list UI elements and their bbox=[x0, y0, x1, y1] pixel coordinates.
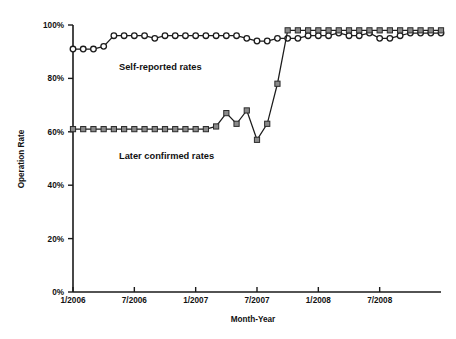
data-point-marker bbox=[111, 127, 116, 132]
data-point-marker bbox=[265, 121, 270, 126]
data-point-marker bbox=[234, 33, 240, 39]
data-point-marker bbox=[254, 38, 260, 44]
data-point-marker bbox=[81, 127, 86, 132]
data-point-marker bbox=[377, 28, 382, 33]
data-point-marker bbox=[387, 28, 392, 33]
x-tick-label: 7/2007 bbox=[244, 296, 269, 305]
data-point-marker bbox=[70, 127, 75, 132]
data-point-marker bbox=[142, 33, 148, 39]
data-point-marker bbox=[275, 36, 281, 42]
data-point-marker bbox=[193, 127, 198, 132]
data-point-marker bbox=[203, 33, 209, 39]
y-tick-label: 100% bbox=[43, 21, 65, 30]
data-point-marker bbox=[214, 124, 219, 129]
data-point-marker bbox=[121, 33, 127, 39]
data-point-marker bbox=[173, 127, 178, 132]
y-tick-label: 40% bbox=[48, 181, 65, 190]
data-point-marker bbox=[356, 33, 362, 39]
y-tick-label: 20% bbox=[48, 235, 65, 244]
data-point-marker bbox=[132, 33, 138, 39]
operation-rate-chart: 0%20%40%60%80%100% Operation Rate 1/2006… bbox=[0, 0, 456, 339]
data-point-marker bbox=[183, 33, 189, 39]
data-point-marker bbox=[193, 33, 199, 39]
data-point-marker bbox=[122, 127, 127, 132]
data-point-marker bbox=[264, 38, 270, 44]
x-tick-label: 1/2008 bbox=[306, 296, 331, 305]
data-point-marker bbox=[162, 127, 167, 132]
data-point-marker bbox=[80, 46, 86, 52]
series-annotation: Self-reported rates bbox=[119, 62, 202, 72]
data-point-marker bbox=[418, 28, 423, 33]
data-point-marker bbox=[306, 28, 311, 33]
chart-background bbox=[0, 0, 456, 339]
data-point-marker bbox=[346, 33, 352, 39]
x-axis-title: Month-Year bbox=[231, 315, 276, 324]
data-point-marker bbox=[326, 28, 331, 33]
data-point-marker bbox=[438, 28, 443, 33]
data-point-marker bbox=[377, 36, 383, 42]
y-tick-label: 80% bbox=[48, 74, 65, 83]
data-point-marker bbox=[397, 33, 403, 39]
data-point-marker bbox=[183, 127, 188, 132]
data-point-marker bbox=[152, 36, 158, 42]
data-point-marker bbox=[152, 127, 157, 132]
x-tick-label: 1/2006 bbox=[60, 296, 85, 305]
data-point-marker bbox=[101, 127, 106, 132]
data-point-marker bbox=[91, 127, 96, 132]
data-point-marker bbox=[111, 33, 117, 39]
data-point-marker bbox=[336, 28, 341, 33]
data-point-marker bbox=[203, 127, 208, 132]
data-point-marker bbox=[367, 28, 372, 33]
data-point-marker bbox=[295, 36, 301, 42]
data-point-marker bbox=[224, 33, 230, 39]
data-point-marker bbox=[305, 33, 311, 39]
data-point-marker bbox=[172, 33, 178, 39]
data-point-marker bbox=[357, 28, 362, 33]
data-point-marker bbox=[244, 108, 249, 113]
series-annotation: Later confirmed rates bbox=[119, 151, 214, 161]
data-point-marker bbox=[408, 28, 413, 33]
data-point-marker bbox=[224, 111, 229, 116]
data-point-marker bbox=[213, 33, 219, 39]
data-point-marker bbox=[387, 36, 393, 42]
data-point-marker bbox=[326, 33, 332, 39]
y-axis-title: Operation Rate bbox=[17, 129, 26, 188]
chart-canvas: 0%20%40%60%80%100% Operation Rate 1/2006… bbox=[0, 0, 456, 339]
data-point-marker bbox=[398, 28, 403, 33]
y-tick-label: 60% bbox=[48, 128, 65, 137]
data-point-marker bbox=[428, 28, 433, 33]
x-tick-label: 1/2007 bbox=[183, 296, 208, 305]
data-point-marker bbox=[234, 121, 239, 126]
data-point-marker bbox=[142, 127, 147, 132]
data-point-marker bbox=[254, 137, 259, 142]
data-point-marker bbox=[132, 127, 137, 132]
x-tick-label: 7/2008 bbox=[367, 296, 392, 305]
data-point-marker bbox=[295, 28, 300, 33]
data-point-marker bbox=[162, 33, 168, 39]
data-point-marker bbox=[285, 28, 290, 33]
data-point-marker bbox=[346, 28, 351, 33]
x-tick-label: 7/2006 bbox=[122, 296, 147, 305]
data-point-marker bbox=[70, 46, 76, 52]
data-point-marker bbox=[101, 44, 107, 50]
data-point-marker bbox=[275, 81, 280, 86]
data-point-marker bbox=[244, 36, 250, 42]
data-point-marker bbox=[316, 33, 322, 39]
data-point-marker bbox=[91, 46, 97, 52]
data-point-marker bbox=[316, 28, 321, 33]
